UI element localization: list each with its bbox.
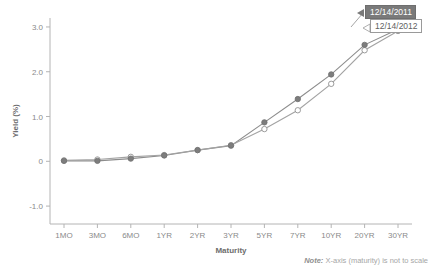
x-axis-title: Maturity — [215, 246, 247, 255]
x-tick-label-3yr: 3YR — [223, 231, 239, 240]
y-tick-label: 1.0 — [32, 113, 44, 122]
callout-label-2011[interactable]: 12/14/2011 — [365, 5, 416, 19]
x-tick-label-20yr: 20YR — [355, 231, 375, 240]
yield-curve-chart: 3.02.01.00-1.0 1MO3MO6MO1YR2YR3YR5YR7YR1… — [0, 0, 434, 270]
x-tick-label-1yr: 1YR — [156, 231, 172, 240]
data-point-7yr[interactable] — [295, 108, 300, 113]
x-tick-label-5yr: 5YR — [257, 231, 273, 240]
data-point-20yr[interactable] — [362, 48, 367, 53]
chart-note: Note: X-axis (maturity) is not to scale — [304, 256, 428, 265]
y-axis-ticks: 3.02.01.00-1.0 — [29, 23, 50, 211]
data-point-5yr[interactable] — [262, 126, 267, 131]
data-point-20yr[interactable] — [362, 42, 367, 47]
y-tick-label: 2.0 — [32, 68, 44, 77]
y-axis-title: Yield (%) — [11, 104, 20, 138]
data-point-2yr[interactable] — [195, 147, 200, 152]
series-line-2012 — [64, 31, 398, 160]
data-point-1yr[interactable] — [162, 153, 167, 158]
data-point-6mo[interactable] — [128, 156, 133, 161]
y-tick-label: -1.0 — [29, 202, 43, 211]
x-tick-label-10yr: 10YR — [321, 231, 341, 240]
x-tick-label-2yr: 2YR — [190, 231, 206, 240]
x-tick-label-7yr: 7YR — [290, 231, 306, 240]
series-line-2011 — [64, 29, 398, 161]
x-tick-label-3mo: 3MO — [89, 231, 106, 240]
axis-group — [50, 18, 412, 224]
data-point-10yr[interactable] — [329, 72, 334, 77]
data-point-10yr[interactable] — [329, 81, 334, 86]
x-axis-ticks: 1MO3MO6MO1YR2YR3YR5YR7YR10YR20YR30YR — [55, 224, 408, 240]
data-point-7yr[interactable] — [295, 96, 300, 101]
data-point-3mo[interactable] — [95, 158, 100, 163]
x-tick-label-30yr: 30YR — [388, 231, 408, 240]
series-markers-2011 — [61, 27, 400, 164]
y-tick-label: 3.0 — [32, 23, 44, 32]
note-prefix: Note: — [304, 256, 323, 265]
note-text: X-axis (maturity) is not to scale — [323, 256, 428, 265]
y-tick-label: 0 — [39, 157, 44, 166]
data-point-5yr[interactable] — [262, 120, 267, 125]
chart-canvas: 3.02.01.00-1.0 1MO3MO6MO1YR2YR3YR5YR7YR1… — [0, 0, 434, 270]
data-point-1mo[interactable] — [61, 158, 66, 163]
callout-label-2012[interactable]: 12/14/2012 — [370, 19, 422, 33]
data-point-3yr[interactable] — [228, 143, 233, 148]
x-tick-label-6mo: 6MO — [122, 231, 139, 240]
x-tick-label-1mo: 1MO — [55, 231, 72, 240]
